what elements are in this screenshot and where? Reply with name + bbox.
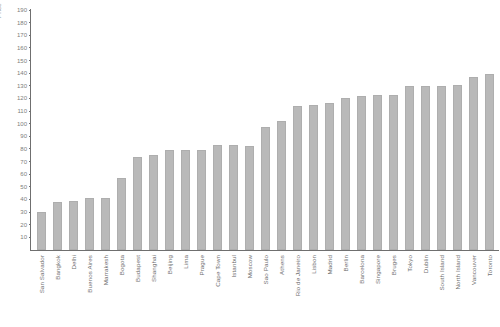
x-axis-label: Bangkok	[54, 255, 61, 280]
bar[interactable]	[421, 86, 430, 250]
bar-slot	[337, 10, 353, 250]
y-axis-tick-label: 80	[20, 146, 29, 152]
y-axis-tick-label: 140	[17, 70, 29, 76]
bar[interactable]	[37, 212, 46, 250]
x-axis-label-slot: Dublin	[417, 253, 433, 327]
bar-slot	[177, 10, 193, 250]
x-axis-label-slot: Buenos Aires	[81, 253, 97, 327]
bar[interactable]	[389, 95, 398, 250]
x-axis-label-slot: North Island	[449, 253, 465, 327]
bar[interactable]	[293, 106, 302, 250]
bar[interactable]	[229, 145, 238, 250]
x-axis-label-slot: Budapest	[129, 253, 145, 327]
bar[interactable]	[101, 198, 110, 250]
bar-slot	[465, 10, 481, 250]
x-axis-label-slot: Vancouver	[465, 253, 481, 327]
x-axis-label-slot: Delhi	[65, 253, 81, 327]
x-axis-label-slot: Tokyo	[401, 253, 417, 327]
x-axis-label-slot: Rio de Janeiro	[289, 253, 305, 327]
bar[interactable]	[85, 198, 94, 250]
bar[interactable]	[69, 201, 78, 250]
y-axis-tick: 140	[17, 70, 31, 76]
x-axis-label-slot: San Salvador	[33, 253, 49, 327]
bar[interactable]	[357, 96, 366, 250]
y-axis-tick: 120	[17, 95, 31, 101]
y-axis-tick: 80	[20, 146, 31, 152]
bar-slot	[97, 10, 113, 250]
bar-slot	[225, 10, 241, 250]
x-axis-label: Lisbon	[310, 255, 317, 274]
y-axis-tick-label: 20	[20, 222, 29, 228]
bar-slot	[305, 10, 321, 250]
bar[interactable]	[437, 86, 446, 250]
bar[interactable]	[53, 202, 62, 250]
x-axis-label: Cape Town	[214, 255, 221, 287]
bar[interactable]	[213, 145, 222, 250]
y-axis-tick-label: 180	[17, 20, 29, 26]
x-axis-label: Tokyo	[406, 255, 413, 272]
x-axis-label: Dublin	[422, 255, 429, 273]
bar[interactable]	[341, 98, 350, 250]
x-axis-label-slot: Prague	[193, 253, 209, 327]
bar[interactable]	[197, 150, 206, 250]
bar[interactable]	[181, 150, 190, 250]
x-axis-label-slot: Athens	[273, 253, 289, 327]
y-axis-tick-label: 120	[17, 95, 29, 101]
y-axis-tick-label: 10	[20, 234, 29, 240]
bar[interactable]	[165, 150, 174, 250]
x-axis-label-slot: Berlin	[337, 253, 353, 327]
bar[interactable]	[309, 105, 318, 250]
bar-slot	[385, 10, 401, 250]
x-axis-label-slot: Marrakesh	[97, 253, 113, 327]
bar[interactable]	[149, 155, 158, 250]
y-axis-tick: 190	[17, 7, 31, 13]
y-axis-tick: 100	[17, 121, 31, 127]
y-axis-tick-label: 160	[17, 45, 29, 51]
bar[interactable]	[373, 95, 382, 250]
bar[interactable]	[245, 146, 254, 250]
y-axis-tick: 30	[20, 209, 31, 215]
y-axis-tick: 90	[20, 133, 31, 139]
x-axis-label: Toronto	[486, 255, 493, 276]
x-axis-label-slot: Barcelona	[353, 253, 369, 327]
x-axis-label-slot: Istanbul	[225, 253, 241, 327]
bar[interactable]	[117, 178, 126, 250]
x-axis-label: Lima	[182, 255, 189, 269]
x-axis-label-slot: Lisbon	[305, 253, 321, 327]
bar-slot	[449, 10, 465, 250]
bar[interactable]	[277, 121, 286, 250]
bar-slot	[145, 10, 161, 250]
x-axis-line	[30, 250, 499, 251]
bar[interactable]	[485, 74, 494, 250]
y-axis-tick: 160	[17, 45, 31, 51]
y-axis-tick-label: 130	[17, 83, 29, 89]
x-axis-label: Buenos Aires	[86, 255, 93, 293]
plot-area: 1901801701601501401301201101009080706050…	[31, 10, 499, 250]
bar[interactable]	[325, 103, 334, 250]
x-axis-label: Delhi	[70, 255, 77, 270]
bar-chart: Price 1901801701601501401301201101009080…	[0, 0, 500, 327]
x-axis-label-slot: Bruges	[385, 253, 401, 327]
y-axis-tick: 60	[20, 171, 31, 177]
bar-slot	[401, 10, 417, 250]
bar-slot	[353, 10, 369, 250]
x-axis-label: Moscow	[246, 255, 253, 278]
x-axis-labels: San SalvadorBangkokDelhiBuenos AiresMarr…	[31, 253, 499, 327]
bar-slot	[273, 10, 289, 250]
x-axis-label: Sao Paulo	[262, 255, 269, 284]
bar[interactable]	[405, 86, 414, 250]
x-axis-label: Madrid	[326, 255, 333, 275]
x-axis-label: North Island	[454, 255, 461, 290]
bar-slot	[257, 10, 273, 250]
y-axis-tick: 150	[17, 58, 31, 64]
y-axis-tick: 110	[17, 108, 31, 114]
x-axis-label-slot: Sao Paulo	[257, 253, 273, 327]
bar[interactable]	[261, 127, 270, 250]
y-axis-tick-label: 110	[17, 108, 29, 114]
bar[interactable]	[133, 157, 142, 250]
x-axis-label-slot: South Island	[433, 253, 449, 327]
bar[interactable]	[469, 77, 478, 250]
bar[interactable]	[453, 85, 462, 250]
y-axis-tick: 20	[20, 222, 31, 228]
y-axis-tick: 130	[17, 83, 31, 89]
